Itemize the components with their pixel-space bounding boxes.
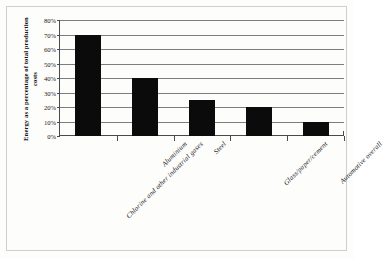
gridline bbox=[60, 35, 344, 36]
bar bbox=[75, 35, 101, 137]
x-axis-category-label: Chlorine and other industrial gases bbox=[125, 140, 205, 220]
x-axis-category-label: Automotive overall bbox=[338, 140, 383, 185]
bar bbox=[303, 122, 329, 137]
y-axis-tick-mark bbox=[57, 78, 60, 79]
y-axis-title: Energy as a percentage of total producti… bbox=[22, 14, 39, 144]
y-axis-tick-mark bbox=[57, 136, 60, 137]
gridline bbox=[60, 49, 344, 50]
y-axis-tick-label: 50% bbox=[44, 60, 56, 67]
y-axis-tick-label: 0% bbox=[47, 133, 56, 140]
y-axis-tick-mark bbox=[57, 35, 60, 36]
y-axis-title-container: Energy as a percentage of total producti… bbox=[14, 14, 48, 144]
x-axis-category-label: Glass/paper/cement bbox=[282, 140, 329, 187]
y-axis-tick-label: 60% bbox=[44, 46, 56, 53]
y-axis-tick-mark bbox=[57, 64, 60, 65]
x-axis-category-label: Steel bbox=[212, 140, 228, 156]
y-axis-tick-label: 10% bbox=[44, 118, 56, 125]
y-axis-tick-label: 20% bbox=[44, 104, 56, 111]
plot-area: 0%10%20%30%40%50%60%70%80% bbox=[60, 20, 344, 136]
y-axis-tick-label: 70% bbox=[44, 31, 56, 38]
y-axis-tick-mark bbox=[57, 107, 60, 108]
y-axis-tick-label: 40% bbox=[44, 75, 56, 82]
y-axis-tick-label: 80% bbox=[44, 17, 56, 24]
bar bbox=[132, 78, 158, 136]
y-axis-tick-label: 30% bbox=[44, 89, 56, 96]
x-axis-labels-group: Chlorine and other industrial gasesAlumi… bbox=[60, 140, 350, 252]
gridline bbox=[60, 93, 344, 94]
bar bbox=[189, 100, 215, 136]
gridline bbox=[60, 20, 344, 21]
y-axis-tick-mark bbox=[57, 20, 60, 21]
bar bbox=[246, 107, 272, 136]
y-axis-tick-mark bbox=[57, 49, 60, 50]
y-axis-tick-mark bbox=[57, 122, 60, 123]
y-axis-tick-mark bbox=[57, 93, 60, 94]
gridline bbox=[60, 64, 344, 65]
gridline bbox=[60, 78, 344, 79]
